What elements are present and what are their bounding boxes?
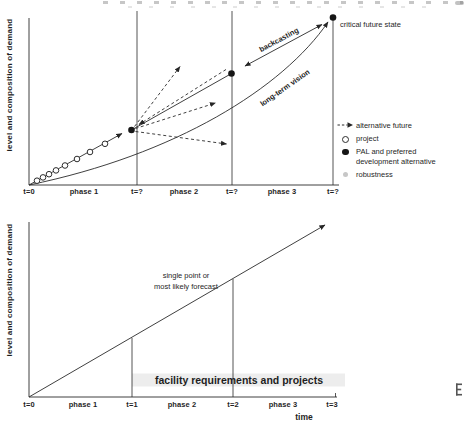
forecast-line <box>29 225 325 397</box>
top-phase-3: phase 3 <box>268 188 297 196</box>
legend-label-robustness: robustness <box>356 170 393 180</box>
alternative-future-arrow-1 <box>135 67 181 127</box>
legend-label-pal: PAL and preferred development alternativ… <box>356 147 456 167</box>
top-tick-tq1: t=? <box>131 188 143 196</box>
legend-label-alternative-future: alternative future <box>356 121 412 131</box>
bottom-y-axis-label: level and composition of demand <box>6 224 14 357</box>
legend: alternative future project PAL and prefe… <box>337 121 469 183</box>
bottom-tick-t0: t=0 <box>23 401 34 409</box>
facility-requirements-label: facility requirements and projects <box>155 375 323 386</box>
filled-circle-icon <box>337 148 354 156</box>
bottom-tick-t1: t=1 <box>126 401 137 409</box>
critical-future-state-label: critical future state <box>340 21 401 29</box>
legend-label-project: project <box>356 134 379 144</box>
forecast-line-1: single point or <box>154 270 218 281</box>
legend-row-alternative-future: alternative future <box>337 121 469 131</box>
bottom-phase-3: phase 3 <box>269 401 298 409</box>
open-circle-icon <box>337 135 354 144</box>
diagram-canvas <box>0 0 469 424</box>
bottom-tick-t3: t=3 <box>326 401 337 409</box>
backcast-to-pal1-arrow <box>139 70 226 125</box>
alternative-future-arrow-3 <box>136 132 227 145</box>
top-phase-1: phase 1 <box>70 188 99 196</box>
legend-row-pal: PAL and preferred development alternativ… <box>337 147 469 167</box>
development-path <box>132 74 232 131</box>
pal-dot-2 <box>228 70 235 77</box>
alternative-future-arrow-2 <box>136 103 216 129</box>
figure-adaptive-planning-diagram: level and composition of demand critical… <box>0 0 469 424</box>
gray-dot-icon <box>337 171 354 178</box>
forecast-line-2: most likely forecast <box>154 281 218 292</box>
margin-mark <box>456 384 462 396</box>
top-y-axis-label: level and composition of demand <box>6 19 14 152</box>
top-tick-tq2: t=? <box>226 188 238 196</box>
top-tick-t0: t=0 <box>23 188 34 196</box>
legend-row-project: project <box>337 134 469 144</box>
bottom-phase-2: phase 2 <box>168 401 197 409</box>
bottom-chart <box>29 222 345 397</box>
bottom-x-axis-label: time <box>295 413 312 422</box>
pal-dot-1 <box>128 127 135 134</box>
forecast-annotation: single point or most likely forecast <box>154 270 218 292</box>
legend-row-robustness: robustness <box>337 170 469 180</box>
top-tick-tq3: t=? <box>327 188 339 196</box>
bottom-tick-t2: t=2 <box>227 401 238 409</box>
bottom-phase-1: phase 1 <box>69 401 98 409</box>
critical-future-state-dot <box>330 14 337 21</box>
top-phase-2: phase 2 <box>170 188 199 196</box>
